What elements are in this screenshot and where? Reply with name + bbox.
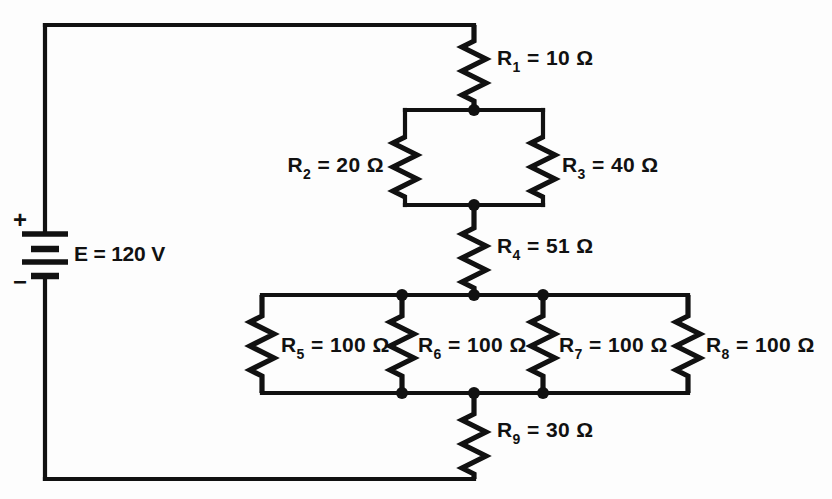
resistor-r8-symbol — [676, 295, 700, 393]
circuit-diagram: + − E = 120 V R1 = 10 Ω R2 = 20 Ω R3 = 4… — [0, 0, 832, 499]
resistor-r8-label: R8 = 100 Ω — [706, 333, 815, 362]
resistor-r2-symbol — [393, 137, 417, 197]
resistor-r9-symbol — [462, 393, 486, 479]
resistor-r5-label: R5 = 100 Ω — [281, 333, 390, 362]
resistor-r6-label: R6 = 100 Ω — [418, 333, 527, 362]
battery-negative-terminal-sign: − — [13, 268, 27, 295]
junction-r6-bottom — [396, 387, 408, 399]
schematic-canvas: + − E = 120 V R1 = 10 Ω R2 = 20 Ω R3 = 4… — [0, 0, 832, 499]
battery-symbol — [22, 234, 68, 276]
resistor-r4-label: R4 = 51 Ω — [497, 234, 594, 263]
resistor-r1-label: R1 = 10 Ω — [497, 46, 594, 75]
resistor-r7-symbol — [531, 295, 555, 393]
resistor-r7-label: R7 = 100 Ω — [559, 333, 668, 362]
junction-r6-top — [396, 289, 408, 301]
battery-label: E = 120 V — [74, 242, 165, 265]
junction-bank-top-center — [468, 289, 480, 301]
junction-r7-top — [537, 289, 549, 301]
resistor-r3-label: R3 = 40 Ω — [562, 153, 659, 182]
resistor-r3-symbol — [531, 137, 555, 197]
battery-positive-terminal-sign: + — [13, 206, 27, 233]
resistor-r5-symbol — [250, 295, 274, 393]
resistor-r2-label: R2 = 20 Ω — [287, 153, 384, 182]
resistor-r4-symbol — [462, 205, 486, 295]
resistor-r6-symbol — [390, 295, 414, 393]
resistor-r9-label: R9 = 30 Ω — [497, 418, 594, 447]
resistor-r1-symbol — [462, 25, 486, 110]
junction-r7-bottom — [537, 387, 549, 399]
